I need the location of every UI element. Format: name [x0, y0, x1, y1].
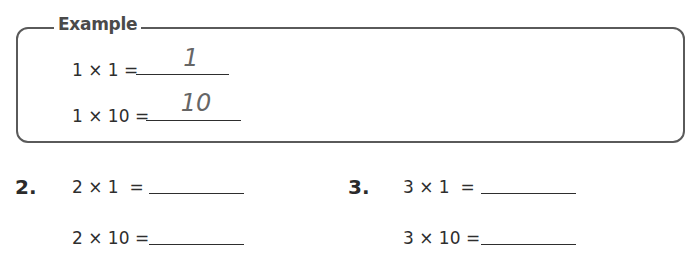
- example-answer-1: 1: [136, 44, 246, 72]
- problem-2-expression-1: 2 × 1 =: [72, 177, 144, 197]
- problem-3-answer-field-1[interactable]: [481, 193, 576, 194]
- problem-3-answer-field-2[interactable]: [481, 244, 576, 245]
- example-expression-1: 1 × 1 =: [72, 60, 138, 80]
- problem-2-expression-2: 2 × 10 =: [72, 228, 149, 248]
- problem-2-answer-field-1[interactable]: [149, 193, 244, 194]
- example-blank-2: [146, 120, 241, 121]
- example-blank-1: [136, 74, 229, 75]
- problem-number-2: 2.: [15, 175, 37, 199]
- example-title: Example: [54, 14, 141, 34]
- problem-3-expression-1: 3 × 1 =: [403, 177, 475, 197]
- problem-number-3: 3.: [348, 175, 370, 199]
- problem-3-expression-2: 3 × 10 =: [403, 228, 480, 248]
- example-answer-2: 10: [146, 89, 246, 117]
- example-expression-2: 1 × 10 =: [72, 106, 149, 126]
- problem-2-answer-field-2[interactable]: [149, 244, 244, 245]
